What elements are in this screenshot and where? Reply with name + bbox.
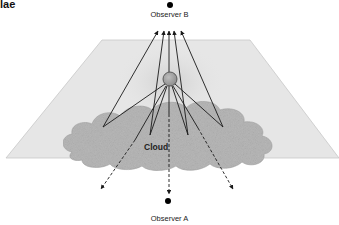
observer-b-dot — [167, 2, 173, 8]
cloud-label: Cloud — [144, 142, 168, 152]
observer-a-label: Observer A — [0, 214, 339, 223]
diagram-canvas: lae Observer B Cloud Observer A — [0, 0, 339, 225]
light-source-sphere — [163, 72, 177, 86]
diagram-svg — [0, 0, 339, 225]
observer-a-dot — [165, 198, 171, 204]
observer-b-label: Observer B — [0, 10, 339, 19]
figure-title-fragment: lae — [0, 0, 15, 10]
